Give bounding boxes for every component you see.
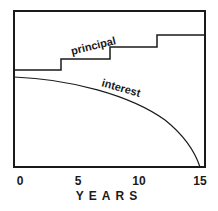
chart-canvas: principal interest bbox=[0, 0, 218, 211]
x-tick-5: 5 bbox=[75, 174, 82, 188]
x-tick-0: 0 bbox=[17, 174, 24, 188]
interest-label: interest bbox=[100, 76, 142, 99]
x-tick-10: 10 bbox=[132, 174, 145, 188]
interest-curve bbox=[14, 77, 200, 167]
x-axis-label: YEARS bbox=[76, 189, 142, 203]
x-tick-15: 15 bbox=[193, 174, 206, 188]
